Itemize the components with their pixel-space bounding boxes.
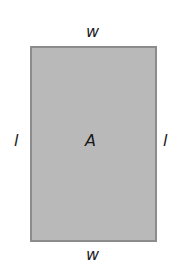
width-label-top: w xyxy=(86,24,99,40)
area-label: A xyxy=(85,133,96,149)
length-label-right: l xyxy=(163,133,167,149)
width-label-bottom: w xyxy=(86,247,99,263)
length-label-left: l xyxy=(14,133,18,149)
